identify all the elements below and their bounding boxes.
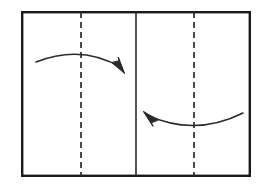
origami-diagram-canvas <box>0 0 265 188</box>
fold-diagram <box>0 0 265 188</box>
